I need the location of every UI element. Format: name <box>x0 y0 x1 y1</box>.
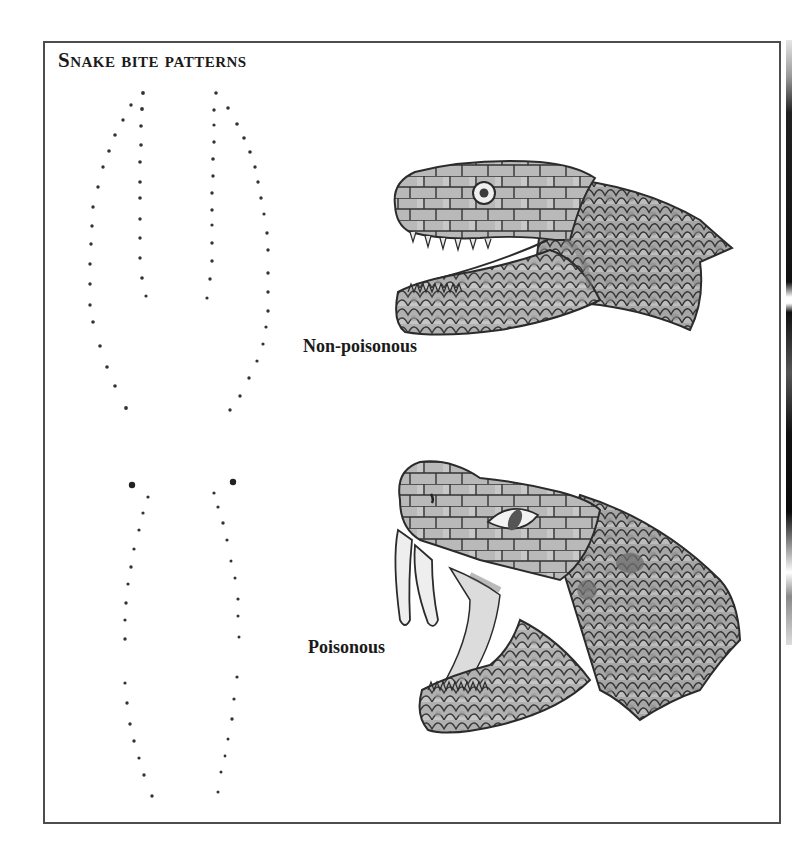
fang-mark-left <box>129 482 135 488</box>
non-poisonous-snake-head <box>395 161 732 334</box>
fang-left <box>395 530 412 625</box>
fang-right <box>415 545 438 626</box>
poisonous-label: Poisonous <box>308 637 385 658</box>
fang-mark-right <box>230 479 236 485</box>
poisonous-snake-head <box>395 461 740 732</box>
bite-patterns <box>0 0 792 864</box>
non-poisonous-label: Non-poisonous <box>303 336 417 357</box>
page-edge-shadow <box>786 40 792 645</box>
figure-canvas: Snake bite patterns <box>0 0 792 864</box>
non-poisonous-bite-pattern <box>88 91 269 412</box>
poisonous-bite-pattern <box>123 479 240 798</box>
